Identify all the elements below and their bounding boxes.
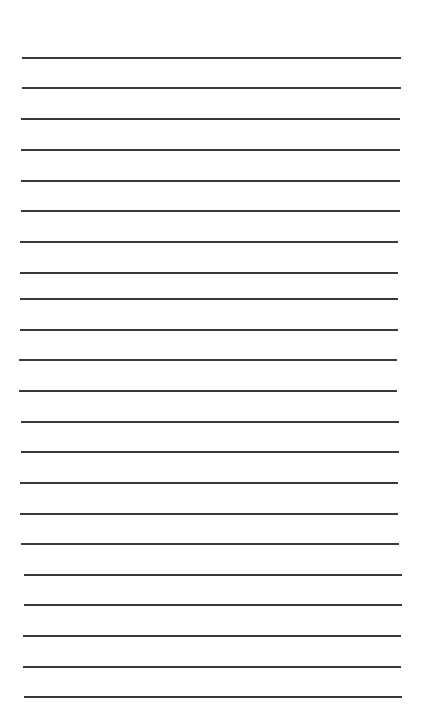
ruled-line bbox=[20, 298, 398, 300]
ruled-line bbox=[24, 574, 402, 576]
ruled-line bbox=[21, 180, 400, 182]
lined-paper bbox=[0, 0, 421, 726]
ruled-line bbox=[21, 149, 400, 151]
ruled-line bbox=[20, 513, 398, 515]
ruled-line bbox=[24, 696, 402, 698]
ruled-line bbox=[19, 359, 397, 361]
ruled-line bbox=[23, 666, 401, 668]
ruled-line bbox=[21, 421, 399, 423]
ruled-line bbox=[20, 329, 398, 331]
ruled-line bbox=[21, 451, 399, 453]
ruled-line bbox=[21, 118, 400, 120]
ruled-line bbox=[20, 241, 398, 243]
ruled-line bbox=[21, 210, 400, 212]
ruled-line bbox=[24, 604, 402, 606]
ruled-line bbox=[20, 482, 398, 484]
ruled-line bbox=[22, 87, 401, 89]
ruled-line bbox=[20, 272, 398, 274]
ruled-line bbox=[19, 390, 397, 392]
ruled-line bbox=[21, 543, 399, 545]
ruled-line bbox=[22, 57, 401, 59]
ruled-line bbox=[23, 635, 401, 637]
